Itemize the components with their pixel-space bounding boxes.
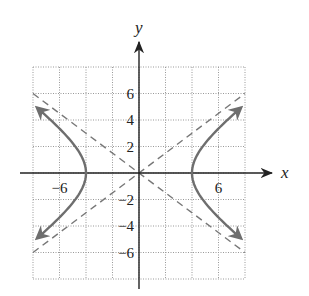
y-tick-label: 2	[127, 139, 135, 155]
y-tick-label: 6	[127, 86, 135, 102]
y-tick-label: −4	[118, 218, 134, 234]
hyperbola-chart: 642−2−4−6−66xy	[0, 0, 309, 296]
x-tick-label: 6	[215, 180, 223, 196]
x-tick-label: −6	[52, 180, 68, 196]
x-axis-label: x	[280, 163, 289, 182]
y-tick-label: −6	[118, 245, 134, 261]
tick-labels: 642−2−4−6−66xy	[52, 18, 289, 261]
y-tick-label: −2	[118, 192, 134, 208]
y-tick-label: 4	[127, 112, 135, 128]
y-axis-label: y	[133, 18, 143, 37]
axes	[20, 42, 272, 289]
